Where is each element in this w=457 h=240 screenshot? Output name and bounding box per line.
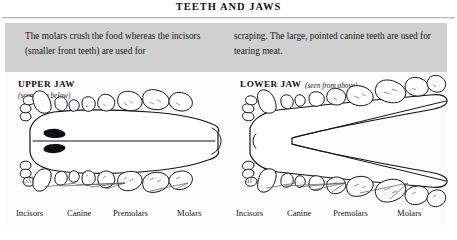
upper-caption-premolars: Premolars <box>113 208 148 218</box>
intro-right-column: scraping. The large, pointed canine teet… <box>234 29 439 59</box>
upper-jaw-subheading: (seen from below) <box>18 91 70 100</box>
lower-caption-canine: Canine <box>287 208 311 218</box>
lower-caption-premolars: Premolars <box>333 208 368 218</box>
illustration-plate <box>5 72 447 228</box>
page-title: TEETH AND JAWS <box>0 1 457 12</box>
title-divider <box>2 17 455 19</box>
lower-jaw-subheading: (seen from above) <box>305 81 357 90</box>
lower-caption-incisors: Incisors <box>236 208 263 218</box>
upper-caption-molars: Molars <box>177 208 201 218</box>
upper-caption-incisors: Incisors <box>16 208 43 218</box>
page-root: TEETH AND JAWS The molars crush the food… <box>0 0 457 240</box>
lower-caption-molars: Molars <box>397 208 421 218</box>
content-card: The molars crush the food whereas the in… <box>5 23 447 228</box>
intro-left-column: The molars crush the food whereas the in… <box>25 29 230 59</box>
upper-jaw-heading: UPPER JAW <box>18 79 75 89</box>
lower-jaw-heading: LOWER JAW <box>240 79 301 89</box>
upper-caption-canine: Canine <box>67 208 91 218</box>
